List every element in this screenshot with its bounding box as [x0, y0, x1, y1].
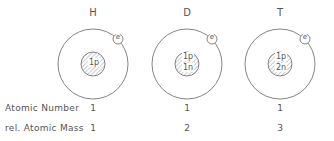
- rel-atomic-mass-d: 2: [184, 123, 190, 133]
- atomic-number-d: 1: [184, 103, 190, 113]
- nucleus-label-protons: 1p: [88, 58, 100, 67]
- atomic-number-t: 1: [277, 103, 283, 113]
- nucleus-label-protons: 1p: [182, 52, 194, 61]
- atomic-number-h: 1: [90, 103, 96, 113]
- electron-label: e: [210, 33, 214, 41]
- electron-label: e: [303, 33, 307, 41]
- symbol-d: D: [183, 7, 191, 18]
- electron-label: e: [116, 33, 120, 41]
- symbol-h: H: [89, 7, 97, 18]
- nucleus-label-protons: 1p: [275, 52, 287, 61]
- rel-atomic-mass-label: rel. Atomic Mass: [5, 123, 84, 133]
- nucleus-label-neutrons: 2n: [275, 63, 287, 72]
- symbol-t: T: [277, 7, 283, 18]
- atomic-number-label: Atomic Number: [5, 103, 79, 113]
- rel-atomic-mass-t: 3: [277, 123, 283, 133]
- rel-atomic-mass-h: 1: [90, 123, 96, 133]
- nucleus-label-neutrons: 1n: [182, 63, 194, 72]
